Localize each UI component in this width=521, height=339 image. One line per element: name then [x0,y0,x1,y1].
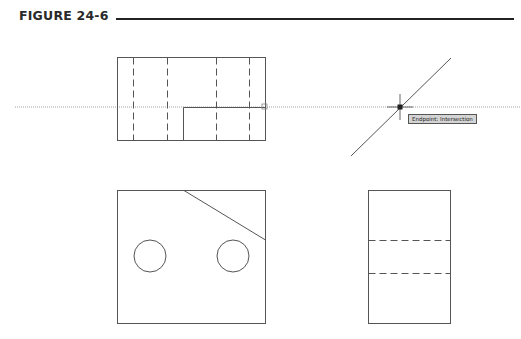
top-view-notch [184,108,266,141]
hole-left [134,240,166,272]
front-view-outline [118,191,266,324]
front-view[interactable] [118,191,266,324]
osnap-tooltip: Endpoint: Intersection [408,114,477,124]
snap-marker-icon [262,104,267,109]
side-view[interactable] [369,191,451,324]
top-view-outline [118,58,266,141]
chamfer-line [184,191,266,241]
cad-drawing-canvas[interactable] [0,0,521,339]
top-view[interactable] [118,58,266,141]
side-view-outline [369,191,451,324]
hole-right [217,240,249,272]
